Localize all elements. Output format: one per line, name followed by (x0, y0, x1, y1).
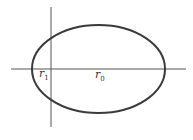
label-r1-subscript: 1 (44, 74, 48, 82)
label-r0-subscript: 0 (100, 75, 104, 83)
ellipse-diagram: r1 r0 (0, 0, 193, 140)
